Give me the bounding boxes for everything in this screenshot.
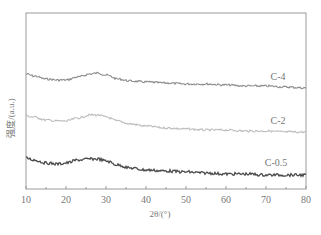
x-tick-label: 20 bbox=[61, 194, 71, 205]
x-tick-label: 30 bbox=[101, 194, 111, 205]
x-tick-label: 70 bbox=[261, 194, 271, 205]
x-tick-label: 80 bbox=[301, 194, 311, 205]
series-label: C-2 bbox=[271, 115, 286, 126]
x-tick-label: 10 bbox=[21, 194, 31, 205]
xrd-chart: C-4C-2C-0.5 1020304050607080 2θ/(°) 强度/(… bbox=[0, 0, 321, 235]
y-axis-title: 强度/(a.u.) bbox=[5, 98, 16, 138]
x-tick-label: 40 bbox=[141, 194, 151, 205]
series-line-c-4 bbox=[26, 72, 306, 89]
x-axis-title: 2θ/(°) bbox=[150, 209, 171, 219]
x-tick-label: 60 bbox=[221, 194, 231, 205]
x-tick-label: 50 bbox=[181, 194, 191, 205]
series-label: C-0.5 bbox=[265, 157, 288, 168]
series-label: C-4 bbox=[271, 71, 286, 82]
series-line-c-2 bbox=[26, 114, 306, 133]
